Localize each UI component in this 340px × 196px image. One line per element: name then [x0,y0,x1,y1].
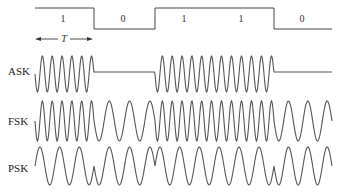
period-label: T [61,33,68,44]
fsk-waveform [35,101,332,141]
bit-label-1: 1 [61,13,66,24]
bit-label-2: 0 [121,13,126,24]
psk-waveform [35,147,332,185]
psk-label: PSK [8,162,28,174]
ask-label: ASK [8,65,30,77]
bit-label-3: 1 [182,13,187,24]
period-arrow: T [35,33,93,44]
modulation-diagram: 1 0 1 1 0 T ASK FSK PSK [0,0,340,196]
bit-label-4: 1 [239,13,244,24]
bit-label-5: 0 [300,13,305,24]
ask-waveform [35,56,332,92]
fsk-label: FSK [8,115,28,127]
